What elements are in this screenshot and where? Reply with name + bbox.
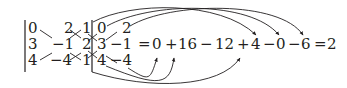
equation-equals-1: = (138, 35, 151, 53)
equation-term-12: 12 (215, 35, 234, 53)
matrix-cell-2-2: 1 (82, 51, 92, 69)
matrix-cell-2-1: −4 (50, 51, 72, 69)
matrix: 0 2 1 3 −1 2 4 −4 1 (28, 19, 92, 69)
aug-cell-2-1: −4 (110, 51, 132, 69)
equation-term-0b: 0 (276, 35, 286, 53)
matrix-cell-2-0: 4 (28, 51, 38, 69)
equation-result: 2 (327, 35, 337, 53)
equation-op-5: + (237, 35, 250, 53)
equation: = 0 + 16 − 12 + 4 − 0 − 6 = 2 (138, 35, 337, 53)
equation-equals-2: = (314, 35, 327, 53)
equation-term-16: 16 (178, 35, 197, 53)
sarrus-diagram: 0 2 1 3 −1 2 4 −4 1 0 2 3 −1 4 −4 = 0 + … (0, 0, 347, 88)
equation-term-0: 0 (152, 35, 162, 53)
equation-term-4: 4 (251, 35, 261, 53)
equation-op-1: + (165, 35, 178, 53)
equation-op-3: − (200, 35, 213, 53)
equation-term-6: 6 (301, 35, 311, 53)
equation-op-7: − (263, 35, 276, 53)
aug-cell-2-0: 4 (97, 51, 107, 69)
equation-op-9: − (288, 35, 301, 53)
